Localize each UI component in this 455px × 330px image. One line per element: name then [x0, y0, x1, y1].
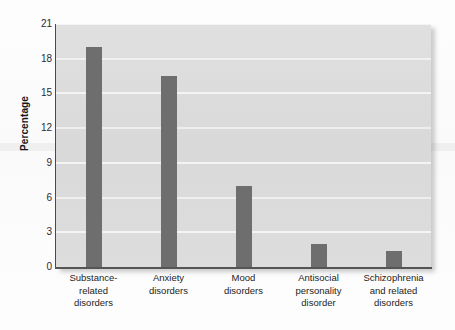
- x-tick-label-line: Antisocial: [281, 272, 356, 285]
- plot-area: [56, 24, 431, 267]
- x-tick-label: Schizophreniaand relateddisorders: [356, 272, 431, 328]
- x-tick-label: Anxietydisorders: [131, 272, 206, 328]
- x-tick-label-line: disorders: [131, 285, 206, 298]
- x-tick-label-line: disorders: [56, 297, 131, 310]
- gridline: [56, 92, 431, 94]
- x-axis-line: [55, 267, 432, 269]
- y-tick-label: 15: [6, 87, 52, 98]
- y-axis-tick-labels: 211815129630: [0, 0, 52, 330]
- y-tick-label: 9: [6, 157, 52, 168]
- gridline: [56, 127, 431, 129]
- x-tick-label-line: disorders: [356, 297, 431, 310]
- x-tick-label: Substance-relateddisorders: [56, 272, 131, 328]
- bar: [236, 186, 252, 267]
- x-tick-label: Mooddisorders: [206, 272, 281, 328]
- x-axis-category-labels: Substance-relateddisordersAnxietydisorde…: [56, 272, 431, 328]
- x-tick-label-line: related: [56, 285, 131, 298]
- x-tick-label-line: Anxiety: [131, 272, 206, 285]
- x-tick-label-line: disorder: [281, 297, 356, 310]
- x-tick-label-line: Substance-: [56, 272, 131, 285]
- x-tick-label-line: Schizophrenia: [356, 272, 431, 285]
- gridline: [56, 162, 431, 164]
- y-axis-line: [55, 24, 56, 268]
- y-tick-label: 21: [6, 18, 52, 29]
- bar: [161, 76, 177, 267]
- y-tick-label: 0: [6, 261, 52, 272]
- y-tick-label: 6: [6, 192, 52, 203]
- x-tick-label-line: and related: [356, 285, 431, 298]
- x-tick-label: Antisocialpersonalitydisorder: [281, 272, 356, 328]
- gridline: [56, 24, 431, 25]
- bar: [86, 47, 102, 267]
- bar: [386, 251, 402, 267]
- y-tick-label: 12: [6, 122, 52, 133]
- x-tick-label-line: personality: [281, 285, 356, 298]
- bar: [311, 244, 327, 267]
- y-tick-label: 3: [6, 226, 52, 237]
- chart-figure: Percentage 211815129630 Substance-relate…: [0, 0, 455, 330]
- x-tick-label-line: Mood: [206, 272, 281, 285]
- gridline: [56, 58, 431, 60]
- y-tick-label: 18: [6, 53, 52, 64]
- x-tick-label-line: disorders: [206, 285, 281, 298]
